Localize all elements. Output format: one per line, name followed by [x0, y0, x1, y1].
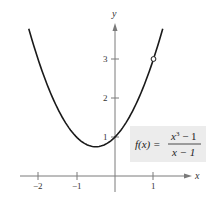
hole-marker-icon — [151, 57, 156, 62]
function-label: f(x) = x3 − 1 x − 1 — [130, 126, 206, 162]
x-axis: x −2 −1 1 — [20, 170, 200, 191]
x-tick-label: 1 — [151, 181, 156, 191]
x-axis-arrow-icon — [184, 174, 192, 179]
numerator-rest: − 1 — [179, 130, 196, 142]
y-axis: y 1 2 3 — [103, 8, 119, 192]
svg-text:x3 − 1: x3 − 1 — [170, 130, 197, 142]
function-graph: x −2 −1 1 y 1 2 3 f(x) = x3 − 1 x − 1 — [0, 0, 217, 203]
svg-text:f(x) =: f(x) = — [135, 138, 160, 151]
y-axis-arrow-icon — [113, 23, 118, 31]
y-tick-label: 3 — [103, 54, 108, 64]
function-lhs: f(x) = — [135, 138, 160, 151]
y-tick-label: 2 — [103, 93, 108, 103]
x-tick-label: −2 — [33, 181, 43, 191]
x-axis-label: x — [194, 170, 200, 181]
denominator: x − 1 — [171, 146, 195, 158]
x-tick-label: −1 — [72, 181, 82, 191]
y-tick-label: 1 — [103, 132, 108, 142]
y-axis-label: y — [111, 8, 117, 19]
